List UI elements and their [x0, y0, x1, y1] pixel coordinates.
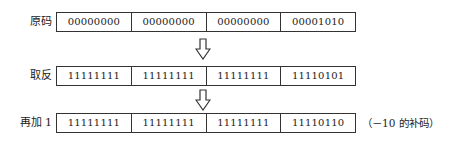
byte-cell: 11110101: [281, 67, 355, 85]
byte-cell: 11111111: [57, 67, 132, 85]
byte-cell: 11111111: [207, 114, 282, 132]
row-label-plus-one: 再加 1: [2, 113, 52, 133]
complement-note: （－10 的补码）: [362, 113, 439, 133]
byte-cell: 11111111: [132, 67, 207, 85]
row-label-original: 原码: [2, 12, 52, 32]
row-label-inverted: 取反: [2, 66, 52, 86]
byte-cell: 00001010: [281, 13, 355, 31]
byte-cell: 11111111: [57, 114, 132, 132]
byte-cell: 11111111: [207, 67, 282, 85]
row-original-code: 00000000 00000000 00000000 00001010: [56, 12, 356, 32]
byte-cell: 11110110: [281, 114, 355, 132]
byte-cell: 00000000: [57, 13, 132, 31]
row-inverted: 11111111 11111111 11111111 11110101: [56, 66, 356, 86]
byte-cell: 00000000: [132, 13, 207, 31]
byte-cell: 00000000: [207, 13, 282, 31]
down-arrow-icon: [195, 38, 211, 60]
row-twos-complement: 11111111 11111111 11111111 11110110: [56, 113, 356, 133]
byte-cell: 11111111: [132, 114, 207, 132]
down-arrow-icon: [195, 89, 211, 111]
